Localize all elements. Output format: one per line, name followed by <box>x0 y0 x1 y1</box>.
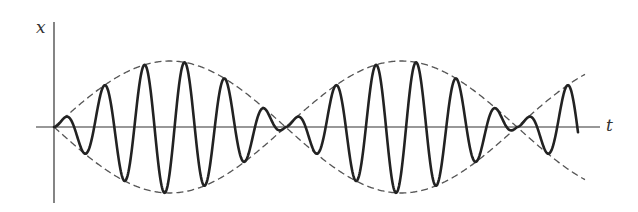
beat-oscillation-figure: x t <box>0 0 638 212</box>
figure-background <box>0 0 638 212</box>
x-axis-label: t <box>606 115 613 135</box>
y-axis-label: x <box>36 17 46 37</box>
